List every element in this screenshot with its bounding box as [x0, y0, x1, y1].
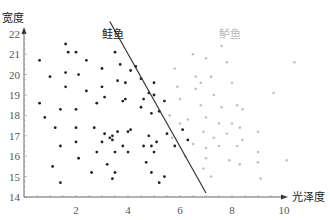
- x-axis: 246810: [24, 195, 290, 217]
- salmon-point: [150, 145, 153, 148]
- salmon-point: [129, 128, 132, 131]
- seabass-point: [272, 92, 275, 95]
- salmon-point: [124, 81, 127, 84]
- y-axis: 141516171819202122: [9, 27, 27, 203]
- salmon-point: [64, 85, 67, 88]
- seabass-point: [194, 75, 197, 78]
- salmon-point: [153, 94, 156, 97]
- salmon-point: [121, 100, 124, 103]
- salmon-point: [158, 181, 161, 184]
- salmon-point: [101, 141, 104, 144]
- salmon-point: [95, 151, 98, 154]
- salmon-point: [59, 181, 62, 184]
- seabass-point: [192, 143, 195, 146]
- y-tick-label: 19: [9, 89, 21, 101]
- salmon-point: [64, 71, 67, 74]
- seabass-point: [202, 167, 205, 170]
- x-arrow-icon: [281, 195, 288, 200]
- y-axis-title: 宽度: [2, 11, 24, 25]
- data-points: [38, 43, 296, 185]
- salmon-point: [142, 98, 145, 101]
- seabass-point: [293, 61, 296, 64]
- seabass-point: [168, 114, 171, 117]
- salmon-point: [85, 90, 88, 93]
- seabass-point: [226, 132, 229, 135]
- salmon-point: [38, 59, 41, 62]
- salmon-point: [67, 51, 70, 54]
- salmon-point: [90, 171, 93, 174]
- seabass-point: [179, 122, 182, 125]
- seabass-point: [257, 151, 260, 154]
- salmon-point: [77, 73, 80, 76]
- x-axis-title: 光泽度: [292, 190, 325, 204]
- salmon-point: [181, 128, 184, 131]
- seabass-label: 鲈鱼: [219, 27, 241, 41]
- seabass-point: [192, 53, 195, 56]
- seabass-point: [241, 108, 244, 111]
- salmon-point: [103, 96, 106, 99]
- seabass-point: [205, 157, 208, 160]
- seabass-point: [236, 145, 239, 148]
- salmon-point: [186, 138, 189, 141]
- salmon-point: [153, 81, 156, 84]
- x-tick-label: 8: [229, 204, 235, 216]
- salmon-point: [114, 171, 117, 174]
- salmon-point: [59, 108, 62, 111]
- decision-boundary-line: [110, 22, 206, 193]
- y-tick-label: 16: [9, 150, 21, 162]
- x-tick-label: 2: [73, 204, 79, 216]
- seabass-point: [218, 122, 221, 125]
- seabass-point: [226, 61, 229, 64]
- salmon-point: [173, 145, 176, 148]
- salmon-point: [121, 145, 124, 148]
- salmon-point: [127, 130, 130, 133]
- seabass-point: [202, 130, 205, 133]
- salmon-point: [43, 116, 46, 119]
- seabass-point: [239, 126, 242, 129]
- salmon-point: [103, 132, 106, 135]
- seabass-point: [187, 118, 190, 121]
- salmon-point: [54, 126, 57, 129]
- seabass-point: [241, 139, 244, 142]
- seabass-point: [218, 145, 221, 148]
- salmon-point: [119, 63, 122, 66]
- salmon-point: [51, 165, 54, 168]
- salmon-point: [150, 112, 153, 115]
- x-tick-label: 4: [125, 204, 131, 216]
- y-tick-label: 18: [9, 109, 21, 121]
- scatter-chart: 141516171819202122 246810 宽度 光泽度 鲑鱼 鲈鱼: [0, 0, 330, 220]
- seabass-point: [213, 94, 216, 97]
- seabass-point: [228, 159, 231, 162]
- salmon-point: [114, 151, 117, 154]
- seabass-point: [236, 104, 239, 107]
- seabass-point: [200, 104, 203, 107]
- seabass-point: [176, 86, 179, 89]
- y-tick-label: 22: [9, 28, 20, 40]
- salmon-point: [124, 98, 127, 101]
- salmon-point: [111, 177, 114, 180]
- y-tick-label: 20: [9, 69, 21, 81]
- salmon-point: [93, 126, 96, 129]
- seabass-point: [205, 116, 208, 119]
- salmon-point: [95, 102, 98, 105]
- seabass-point: [285, 159, 288, 162]
- salmon-point: [59, 145, 62, 148]
- salmon-point: [127, 151, 130, 154]
- salmon-point: [116, 130, 119, 133]
- salmon-point: [85, 59, 88, 62]
- salmon-point: [163, 100, 166, 103]
- salmon-point: [75, 141, 78, 144]
- seabass-point: [171, 137, 174, 140]
- seabass-point: [257, 130, 260, 133]
- y-tick-label: 21: [9, 48, 20, 60]
- seabass-point: [231, 122, 234, 125]
- salmon-point: [129, 69, 132, 72]
- salmon-point: [153, 151, 156, 154]
- salmon-point: [101, 67, 104, 70]
- salmon-point: [106, 163, 109, 166]
- seabass-point: [205, 147, 208, 150]
- seabass-point: [213, 137, 216, 140]
- salmon-point: [77, 157, 80, 160]
- salmon-point: [145, 161, 148, 164]
- x-tick-label: 10: [279, 204, 291, 216]
